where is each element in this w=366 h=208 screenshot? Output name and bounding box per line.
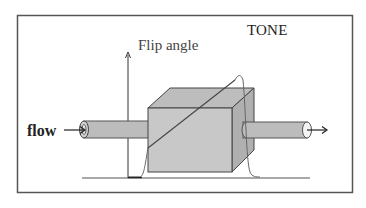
cube bbox=[148, 88, 254, 172]
flip-angle-label: Flip angle bbox=[138, 37, 199, 53]
title-label: TONE bbox=[247, 22, 288, 38]
left-pipe bbox=[80, 121, 151, 138]
tone-diagram: TONE Flip angle bbox=[0, 0, 366, 208]
flow-label: flow bbox=[27, 122, 57, 139]
right-pipe bbox=[242, 122, 312, 138]
cube-front-face bbox=[148, 108, 232, 172]
diagram-canvas: TONE Flip angle bbox=[0, 0, 366, 208]
